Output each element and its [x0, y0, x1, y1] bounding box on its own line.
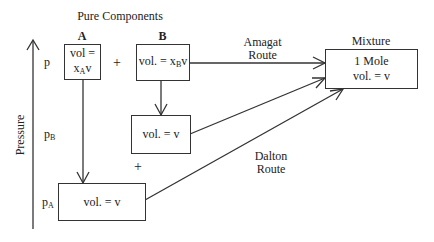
mixture-volume: vol. = v: [353, 69, 390, 84]
pressure-level-pA: pA: [42, 195, 54, 213]
component-B-header: B: [136, 29, 189, 43]
pure-components-title: Pure Components: [70, 9, 170, 23]
component-A-box: vol = xAv: [64, 44, 101, 80]
plus-sign-top: +: [113, 56, 121, 70]
component-B-volume: vol. = xBv: [139, 54, 187, 72]
dalton-route-label: Dalton Route: [244, 150, 298, 176]
mixture-header: Mixture: [325, 34, 417, 48]
component-A-at-pA-volume: vol. = v: [83, 195, 120, 210]
pressure-axis-label: Pressure: [13, 107, 27, 163]
plus-sign-bottom: +: [134, 160, 142, 174]
component-A-line2: xAv: [74, 61, 92, 79]
pressure-level-pB: pB: [44, 127, 55, 145]
amagat-route-label: Amagat Route: [235, 36, 290, 62]
component-B-at-pB-box: vol. = v: [131, 115, 191, 154]
pressure-level-p: p: [44, 55, 50, 69]
mixture-box: 1 Mole vol. = v: [325, 49, 418, 89]
mixture-moles: 1 Mole: [354, 54, 388, 69]
component-A-header: A: [64, 29, 100, 43]
component-B-at-pB-volume: vol. = v: [142, 127, 179, 142]
component-B-box: vol. = xBv: [136, 44, 190, 81]
component-A-line1: vol =: [70, 46, 95, 61]
component-A-at-pA-box: vol. = v: [58, 183, 146, 221]
